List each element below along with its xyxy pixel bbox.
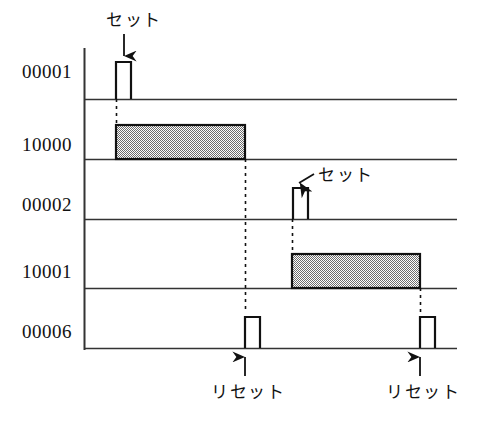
annotation-reset-second-label: リセット	[386, 382, 460, 402]
row-label-00002: 00002	[22, 194, 72, 215]
set-middle-arrow-icon	[299, 174, 314, 183]
timing-diagram-figure: 00001 10000 00002 10001 00006 セット	[0, 0, 482, 421]
row-label-10000: 10000	[22, 134, 72, 155]
row-label-00001: 00001	[22, 61, 72, 82]
annotation-reset-first-label: リセット	[211, 382, 285, 402]
timing-diagram-canvas: 00001 10000 00002 10001 00006 セット	[0, 0, 482, 421]
bar-10001	[292, 254, 420, 288]
pulse-00002	[293, 188, 308, 219]
row-label-00006: 00006	[22, 321, 72, 342]
annotation-set-top-label: セット	[106, 10, 162, 30]
pulse-00006-first	[245, 317, 260, 348]
bar-10000	[116, 125, 245, 159]
pulse-00006-second	[420, 317, 435, 348]
annotation-set-middle-label: セット	[318, 165, 374, 185]
row-label-10001: 10001	[22, 261, 72, 282]
pulse-00001	[116, 62, 131, 99]
